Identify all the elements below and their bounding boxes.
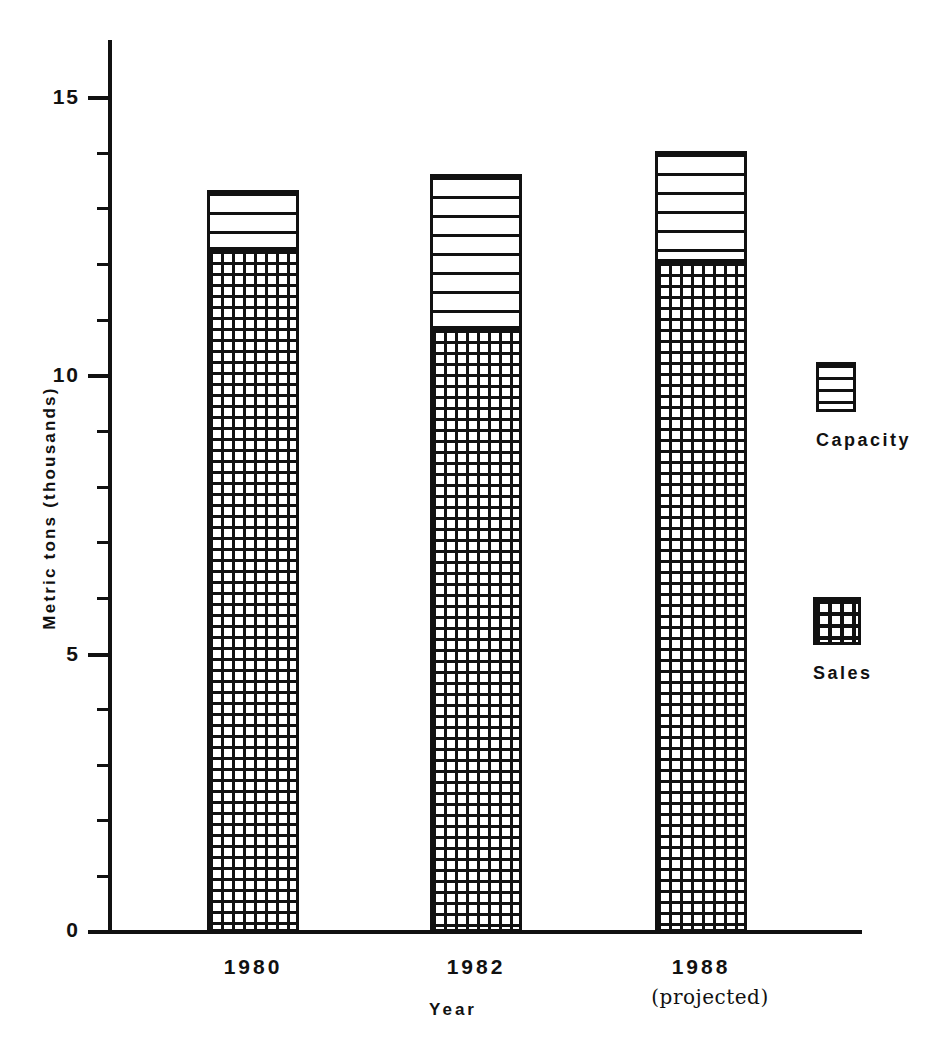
y-tick-minor-12 (97, 263, 110, 266)
legend-swatch-capacity-icon (816, 362, 856, 412)
y-tick-major-0 (88, 930, 110, 934)
bar-1982[interactable] (430, 174, 522, 932)
y-tick-minor-7 (97, 541, 110, 544)
bar-1980-capacity-segment (207, 190, 299, 250)
bar-1988-sales-segment (655, 260, 747, 932)
y-tick-minor-4 (97, 708, 110, 711)
legend-label-sales: Sales (813, 663, 873, 684)
x-tick-label-1980: 1980 (163, 955, 343, 979)
legend-swatch-sales-icon (813, 597, 861, 645)
y-tick-label-10: 10 (40, 363, 80, 387)
bar-1988[interactable] (655, 151, 747, 932)
y-tick-label-0: 0 (40, 918, 80, 942)
y-tick-minor-1 (97, 875, 110, 878)
bar-1980-sales-segment (207, 248, 299, 932)
y-tick-minor-3 (97, 764, 110, 767)
x-tick-label-1982: 1982 (386, 955, 566, 979)
bar-1980[interactable] (207, 190, 299, 932)
y-tick-major-15 (88, 96, 110, 100)
y-tick-minor-8 (97, 486, 110, 489)
y-tick-label-15: 15 (40, 85, 80, 109)
legend-item-sales[interactable]: Sales (813, 597, 873, 684)
x-tick-label-1988: 1988 (611, 955, 791, 979)
projected-annotation: (projected) (600, 985, 820, 1009)
y-tick-minor-2 (97, 819, 110, 822)
y-tick-major-5 (88, 653, 110, 657)
y-tick-minor-13 (97, 207, 110, 210)
legend-item-capacity[interactable]: Capacity (816, 362, 911, 451)
legend-label-capacity: Capacity (816, 430, 911, 451)
bar-1982-capacity-segment (430, 174, 522, 329)
y-tick-minor-9 (97, 430, 110, 433)
y-tick-minor-11 (97, 319, 110, 322)
y-tick-minor-6 (97, 597, 110, 600)
bar-1982-sales-segment (430, 327, 522, 932)
bar-1988-capacity-segment (655, 151, 747, 262)
y-tick-minor-14 (97, 152, 110, 155)
chart-canvas: Metric tons (thousands) 15 10 5 0 1980 1… (0, 0, 939, 1054)
y-tick-major-10 (88, 374, 110, 378)
x-axis-title: Year (383, 1000, 523, 1020)
y-tick-label-5: 5 (40, 642, 80, 666)
